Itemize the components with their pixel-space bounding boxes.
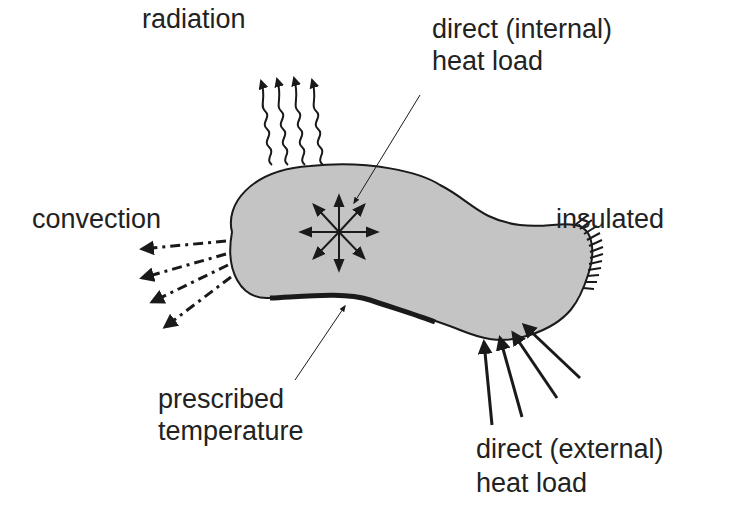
radiation-label: radiation <box>142 4 246 35</box>
external-heat-load-label-line1: direct (external) <box>476 434 664 465</box>
convection-label: convection <box>32 204 161 235</box>
convection-arrows <box>142 241 231 327</box>
radiation-arrows <box>261 78 323 165</box>
internal-heat-load-label-line2: heat load <box>432 46 543 77</box>
prescribed-temperature-label-line1: prescribed <box>158 384 284 415</box>
internal-heat-load-label-line1: direct (internal) <box>432 14 612 45</box>
prescribed-temperature-label-line2: temperature <box>158 416 304 447</box>
insulated-label: insulated <box>556 204 664 235</box>
prescribed-leader-line <box>295 306 345 380</box>
heat-transfer-diagram: radiation direct (internal) heat load co… <box>0 0 742 526</box>
external-heat-load-label-line2: heat load <box>476 468 587 499</box>
